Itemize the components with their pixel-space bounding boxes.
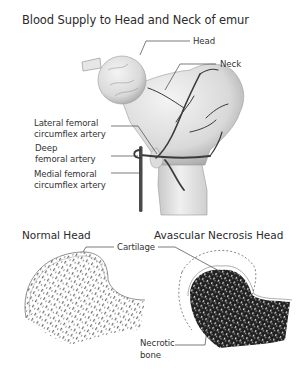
- avn-head-drawing: [179, 250, 292, 348]
- label-lateral-femoral-line2: circumflex artery: [34, 129, 106, 140]
- normal-head-title: Normal Head: [22, 229, 91, 241]
- femur-proximal-drawing: [82, 56, 244, 215]
- label-deep-femoral-line2: femoral artery: [35, 154, 96, 165]
- normal-head-drawing: [25, 252, 145, 345]
- label-cartilage: Cartilage: [117, 242, 155, 253]
- label-medial-femoral-line2: circumflex artery: [34, 180, 106, 191]
- femur-illustration: [0, 0, 306, 387]
- label-lateral-femoral-line1: Lateral femoral: [34, 118, 98, 129]
- label-necrotic-line2: bone: [140, 350, 161, 361]
- label-medial-femoral-line1: Medial femoral: [34, 169, 97, 180]
- label-neck: Neck: [220, 59, 241, 70]
- diagram-title: Blood Supply to Head and Neck of emur: [22, 13, 249, 27]
- label-necrotic-line1: Necrotic: [140, 338, 175, 349]
- label-deep-femoral-line1: Deep: [35, 143, 57, 154]
- avn-head-title: Avascular Necrosis Head: [154, 229, 283, 241]
- label-head: Head: [193, 36, 215, 47]
